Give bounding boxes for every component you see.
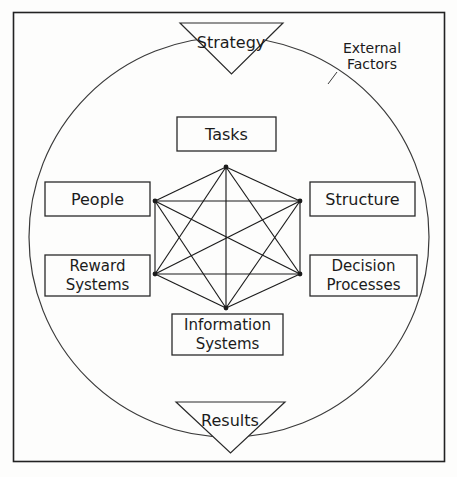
edge-tasks-reward [155, 167, 226, 274]
external-factors-label-line2: Factors [347, 56, 397, 72]
edge-people-information [155, 201, 226, 308]
node-box-decision-processes[interactable]: Decision Processes [310, 255, 417, 296]
junction-reward [153, 272, 158, 277]
diagram-canvas: Strategy Results External Factors [0, 0, 457, 477]
external-factors-label-line1: External [343, 40, 401, 56]
organization-design-diagram: Strategy Results External Factors [0, 0, 457, 477]
junction-structure [298, 199, 303, 204]
node-box-tasks[interactable]: Tasks [177, 117, 276, 151]
tasks-label: Tasks [204, 125, 248, 144]
junction-information [224, 306, 229, 311]
external-factors-annotation: External Factors [328, 40, 401, 84]
node-box-structure[interactable]: Structure [310, 182, 415, 216]
edge-tasks-decision [226, 167, 300, 274]
decision-processes-label-line1: Decision [332, 257, 396, 275]
decision-processes-label-line2: Processes [327, 276, 401, 294]
reward-systems-label-line1: Reward [70, 257, 126, 275]
people-label: People [71, 190, 124, 209]
node-box-people[interactable]: People [45, 182, 150, 216]
structure-label: Structure [325, 190, 399, 209]
reward-systems-label-line2: Systems [66, 276, 130, 294]
junction-people [153, 199, 158, 204]
edge-structure-information [226, 201, 300, 308]
information-systems-label-line1: Information [184, 316, 271, 334]
connection-network [155, 167, 300, 308]
node-box-reward-systems[interactable]: Reward Systems [45, 255, 150, 296]
information-systems-label-line2: Systems [196, 335, 260, 353]
node-box-information-systems[interactable]: Information Systems [172, 314, 283, 355]
external-factors-leader-line [328, 72, 337, 84]
junction-decision [298, 272, 303, 277]
strategy-label: Strategy [197, 33, 266, 52]
junction-tasks [224, 165, 229, 170]
results-label: Results [201, 411, 259, 430]
